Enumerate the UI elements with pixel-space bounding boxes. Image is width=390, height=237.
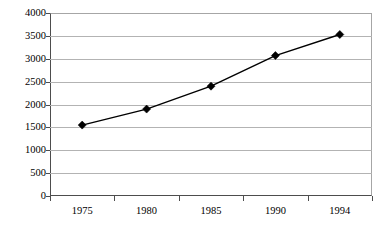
data-point-marker xyxy=(143,105,151,113)
data-point-marker xyxy=(336,31,344,39)
data-point-marker xyxy=(207,82,215,90)
data-point-marker xyxy=(271,52,279,60)
series-line xyxy=(82,35,340,126)
line-chart: 05001000150020002500300035004000 1975198… xyxy=(0,0,390,237)
series-markers xyxy=(78,31,344,130)
data-point-marker xyxy=(78,121,86,129)
data-series-layer xyxy=(0,0,390,237)
